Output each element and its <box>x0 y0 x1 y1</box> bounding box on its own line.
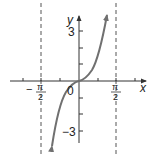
pi-numerator: π <box>37 82 43 92</box>
function-graph: y 3 −3 0 x − π 2 π 2 <box>0 0 152 158</box>
origin-label: 0 <box>67 84 74 98</box>
minus-sign: − <box>26 83 32 95</box>
y-tick-label-neg3: −3 <box>62 125 76 139</box>
x-tick-label-neg-half-pi: − π 2 <box>26 82 46 102</box>
two-denominator: 2 <box>38 92 43 102</box>
two-denominator: 2 <box>113 92 118 102</box>
pi-numerator: π <box>112 82 118 92</box>
x-tick-label-half-pi: π 2 <box>111 82 121 102</box>
x-axis-label: x <box>139 81 147 95</box>
y-tick-label-3: 3 <box>68 25 75 39</box>
